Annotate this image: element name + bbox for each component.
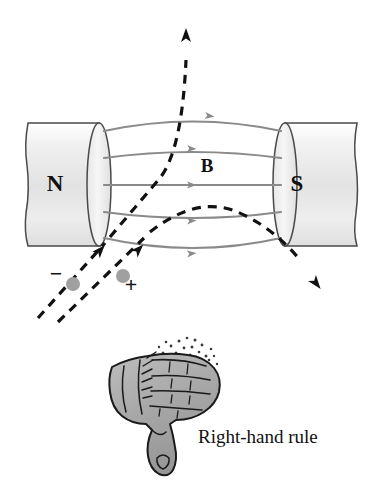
magnet-north: N bbox=[25, 123, 111, 246]
field-label-B: B bbox=[201, 155, 214, 176]
right-hand-rule-caption: Right-hand rule bbox=[198, 426, 318, 447]
south-pole-label: S bbox=[291, 171, 304, 196]
negative-charge-dot bbox=[66, 277, 80, 291]
magnet-south: S bbox=[273, 123, 358, 246]
field-arrow-1 bbox=[205, 112, 215, 120]
negative-path-outgoing bbox=[110, 60, 186, 237]
positive-charge-sign: + bbox=[125, 272, 138, 297]
charge-positive: + bbox=[116, 269, 137, 297]
positive-trajectory-arrowheads bbox=[130, 241, 324, 292]
north-pole-label: N bbox=[47, 171, 64, 196]
negative-arrow-tip bbox=[181, 28, 191, 42]
negative-charge-sign: − bbox=[50, 261, 63, 286]
hand-palm bbox=[109, 354, 219, 476]
field-line-1 bbox=[104, 122, 281, 132]
field-arrow-5 bbox=[187, 249, 197, 257]
field-line-2 bbox=[104, 152, 281, 158]
field-line-5 bbox=[104, 238, 281, 248]
field-line-4 bbox=[104, 212, 281, 218]
positive-arrow-tip bbox=[308, 275, 324, 292]
right-hand-illustration bbox=[109, 337, 219, 476]
physics-diagram-canvas: N S B − bbox=[0, 0, 386, 486]
